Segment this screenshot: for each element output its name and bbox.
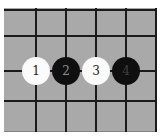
stone-4-black: 4 [112,57,140,85]
page: 1234 [0,0,162,139]
stone-number: 2 [62,65,70,77]
stone-2-black: 2 [52,57,80,85]
go-board: 1234 [4,8,157,132]
grid-line-horizontal [4,100,157,102]
grid-line-horizontal [4,9,157,11]
grid-line-horizontal [4,35,157,37]
stone-number: 3 [92,65,100,77]
stone-1-white: 1 [22,57,50,85]
stone-number: 4 [122,65,130,77]
stone-3-white: 3 [82,57,110,85]
stone-number: 1 [32,65,40,77]
